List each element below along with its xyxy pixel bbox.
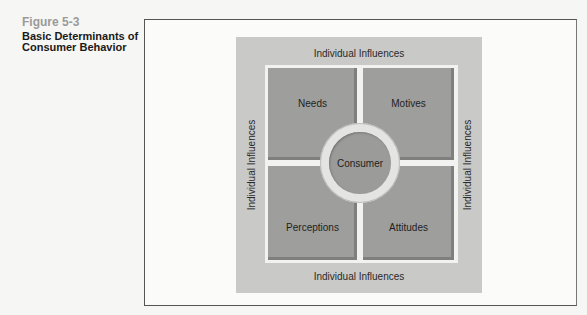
influences-panel: Individual Influences Individual Influen… — [236, 37, 482, 293]
quadrant-label: Perceptions — [268, 222, 357, 233]
figure-number: Figure 5-3 — [22, 16, 142, 29]
consumer-label: Consumer — [337, 158, 383, 169]
label-right-individual-influences: Individual Influences — [462, 120, 473, 211]
label-top-individual-influences: Individual Influences — [236, 48, 482, 59]
figure-title: Basic Determinants of Consumer Behavior — [22, 31, 142, 53]
quadrant-label: Motives — [363, 98, 454, 109]
consumer-circle: Consumer — [329, 132, 391, 194]
quadrant-label: Attitudes — [363, 222, 454, 233]
quadrant-label: Needs — [268, 98, 357, 109]
consumer-ring: Consumer — [320, 123, 400, 203]
label-bottom-individual-influences: Individual Influences — [236, 271, 482, 282]
figure-caption: Figure 5-3 Basic Determinants of Consume… — [22, 16, 142, 53]
label-left-individual-influences: Individual Influences — [246, 120, 257, 211]
left-label-area: Individual Influences — [236, 37, 266, 293]
